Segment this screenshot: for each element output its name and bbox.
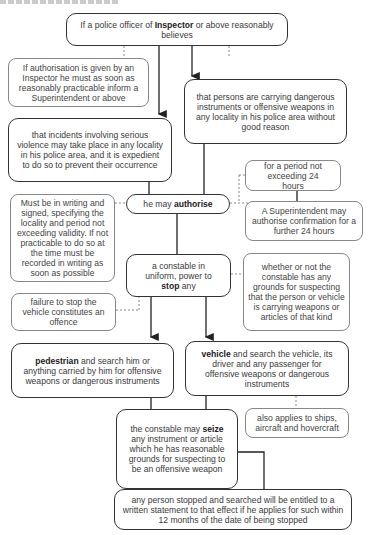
- node-superintendent-confirmation: A Superintendent may authorise confirmat…: [245, 201, 363, 241]
- node-writing-requirement: Must be in writing and signed, specifyin…: [10, 194, 115, 282]
- node-written-statement: any person stopped and searched will be …: [114, 489, 352, 530]
- node-inform-superintendent: If authorisation is given by an Inspecto…: [8, 58, 149, 107]
- node-pedestrian[interactable]: pedestrian and search him or anything ca…: [11, 343, 174, 398]
- node-vehicle[interactable]: vehicle and search the vehicle, its driv…: [185, 341, 349, 396]
- node-period-24-hours: for a period not exceeding 24 hours: [245, 160, 341, 191]
- node-constable-seize[interactable]: the constable may seize any instrument o…: [116, 409, 238, 489]
- node-grounds-suspecting: whether or not the constable has any gro…: [243, 253, 350, 331]
- node-serious-violence: that incidents involving serious violenc…: [8, 118, 172, 182]
- node-failure-to-stop: failure to stop the vehicle constitutes …: [11, 293, 116, 331]
- node-inspector-believes: If a police officer of Inspector or abov…: [66, 13, 288, 46]
- node-persons-carrying: that persons are carrying dangerous inst…: [184, 79, 347, 144]
- node-constable-stop[interactable]: a constable in uniform, power to stop an…: [126, 254, 231, 297]
- node-ships-aircraft: also applies to ships, aircraft and hove…: [245, 408, 349, 438]
- node-he-may-authorise[interactable]: he may authorise: [126, 194, 230, 214]
